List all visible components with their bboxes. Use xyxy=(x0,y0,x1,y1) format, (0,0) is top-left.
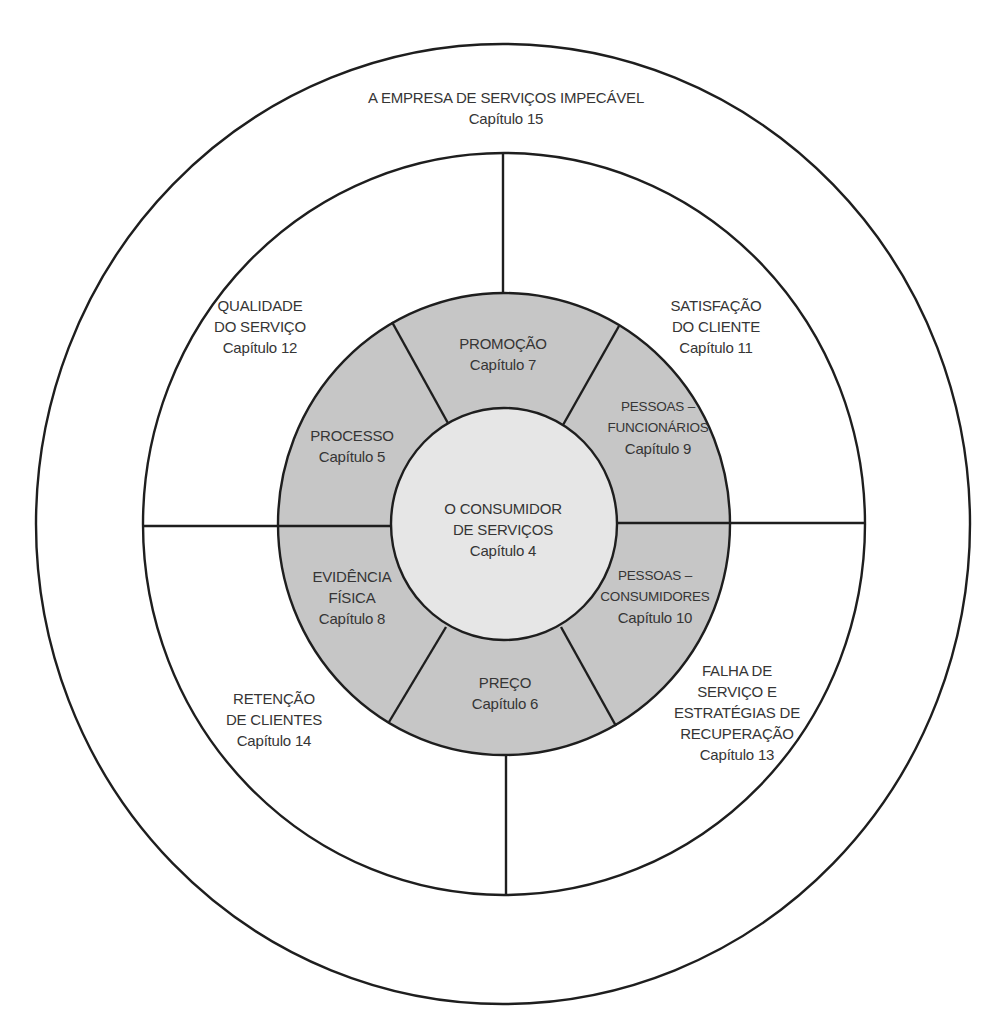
segment-chapter: Capítulo 6 xyxy=(472,693,538,714)
segment-line: EVIDÊNCIA xyxy=(312,566,391,587)
segment-physical-evidence: EVIDÊNCIA FÍSICA Capítulo 8 xyxy=(312,566,391,629)
quadrant-chapter: Capítulo 13 xyxy=(674,744,800,765)
quadrant-line: SATISFAÇÃO xyxy=(670,295,761,316)
outer-ring-chapter: Capítulo 15 xyxy=(368,108,644,129)
quadrant-line: SERVIÇO E xyxy=(674,681,800,702)
quadrant-line: DO SERVIÇO xyxy=(214,316,306,337)
quadrant-satisfaction: SATISFAÇÃO DO CLIENTE Capítulo 11 xyxy=(670,295,761,358)
segment-line: PROMOÇÃO xyxy=(459,333,547,354)
outer-ring-title: A EMPRESA DE SERVIÇOS IMPECÁVEL xyxy=(368,87,644,108)
segment-chapter: Capítulo 8 xyxy=(312,608,391,629)
segment-process: PROCESSO Capítulo 5 xyxy=(310,425,393,467)
segment-chapter: Capítulo 9 xyxy=(607,438,708,459)
quadrant-line: FALHA DE xyxy=(674,660,800,681)
segment-line: PESSOAS – xyxy=(607,396,708,417)
segment-chapter: Capítulo 7 xyxy=(459,354,547,375)
core-line: DE SERVIÇOS xyxy=(444,519,562,540)
quadrant-quality: QUALIDADE DO SERVIÇO Capítulo 12 xyxy=(214,295,306,358)
segment-line: PROCESSO xyxy=(310,425,393,446)
quadrant-recovery: FALHA DE SERVIÇO E ESTRATÉGIAS DE RECUPE… xyxy=(674,660,800,765)
outer-ring-label: A EMPRESA DE SERVIÇOS IMPECÁVEL Capítulo… xyxy=(368,87,644,129)
segment-people-consumers: PESSOAS – CONSUMIDORES Capítulo 10 xyxy=(600,565,709,628)
segment-price: PREÇO Capítulo 6 xyxy=(472,672,538,714)
segment-line: CONSUMIDORES xyxy=(600,586,709,607)
quadrant-chapter: Capítulo 12 xyxy=(214,337,306,358)
quadrant-line: DE CLIENTES xyxy=(226,709,322,730)
segment-promotion: PROMOÇÃO Capítulo 7 xyxy=(459,333,547,375)
quadrant-retention: RETENÇÃO DE CLIENTES Capítulo 14 xyxy=(226,688,322,751)
core-line: O CONSUMIDOR xyxy=(444,498,562,519)
segment-line: PESSOAS – xyxy=(600,565,709,586)
quadrant-chapter: Capítulo 11 xyxy=(670,337,761,358)
quadrant-line: RECUPERAÇÃO xyxy=(674,723,800,744)
core-chapter: Capítulo 4 xyxy=(444,540,562,561)
segment-line: PREÇO xyxy=(472,672,538,693)
core-label: O CONSUMIDOR DE SERVIÇOS Capítulo 4 xyxy=(444,498,562,561)
segment-people-employees: PESSOAS – FUNCIONÁRIOS Capítulo 9 xyxy=(607,396,708,459)
quadrant-line: QUALIDADE xyxy=(214,295,306,316)
segment-line: FUNCIONÁRIOS xyxy=(607,417,708,438)
segment-chapter: Capítulo 5 xyxy=(310,446,393,467)
quadrant-line: DO CLIENTE xyxy=(670,316,761,337)
quadrant-line: ESTRATÉGIAS DE xyxy=(674,702,800,723)
segment-line: FÍSICA xyxy=(312,587,391,608)
segment-chapter: Capítulo 10 xyxy=(600,607,709,628)
quadrant-line: RETENÇÃO xyxy=(226,688,322,709)
quadrant-chapter: Capítulo 14 xyxy=(226,730,322,751)
